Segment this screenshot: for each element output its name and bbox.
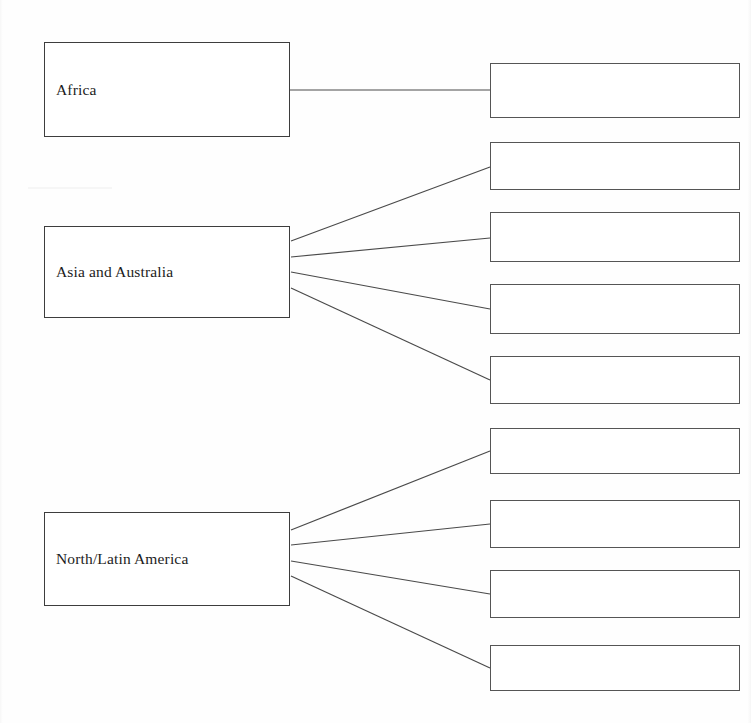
category-box-africa[interactable]: Africa [44,42,290,137]
connector-line [291,288,490,380]
blank-box-4[interactable] [490,284,740,334]
connector-line [291,451,490,530]
category-label-asia-australia: Asia and Australia [45,263,173,280]
connector-line [291,272,490,309]
connector-line [291,238,490,257]
connector-line [291,524,490,545]
blank-box-6[interactable] [490,428,740,474]
blank-box-5[interactable] [490,356,740,404]
category-label-north-latin-america: North/Latin America [45,550,188,567]
diagram-page: Africa Asia and Australia North/Latin Am… [0,0,751,723]
category-label-africa: Africa [45,81,96,98]
blank-box-9[interactable] [490,645,740,691]
connector-line [291,561,490,594]
blank-box-1[interactable] [490,63,740,118]
blank-box-2[interactable] [490,142,740,190]
connector-line [291,167,490,241]
category-box-north-latin-america[interactable]: North/Latin America [44,512,290,606]
connector-line [291,576,490,668]
blank-box-8[interactable] [490,570,740,618]
blank-box-3[interactable] [490,212,740,262]
blank-box-7[interactable] [490,500,740,548]
category-box-asia-australia[interactable]: Asia and Australia [44,226,290,318]
